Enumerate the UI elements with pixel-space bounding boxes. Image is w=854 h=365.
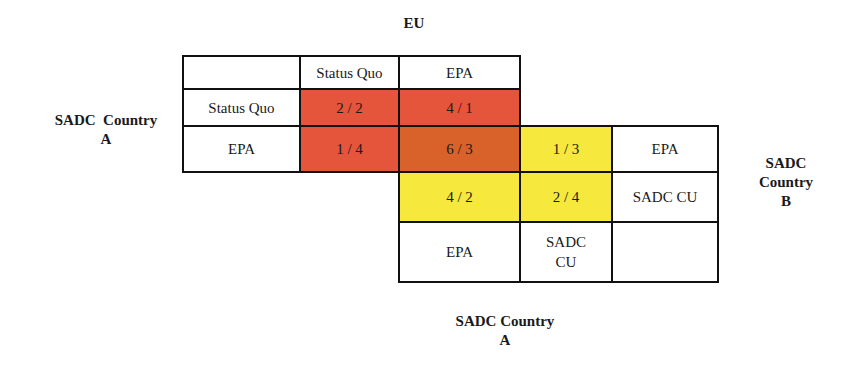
label-line: A	[420, 331, 590, 350]
label-line: Country	[736, 173, 836, 192]
grid-line	[398, 55, 400, 283]
bottom-col-header-sadc-cu: SADC CU	[520, 222, 612, 282]
top-corner-cell	[183, 56, 300, 89]
bottom-col-header-epa: EPA	[399, 222, 520, 282]
payoff-cell-sq-epa: 4 / 1	[399, 89, 520, 126]
grid-line	[398, 281, 719, 283]
grid-line	[299, 55, 301, 173]
top-col-header-status-quo: Status Quo	[300, 56, 399, 89]
grid-line	[519, 55, 521, 283]
bottom-corner-cell	[612, 222, 718, 282]
grid-line	[611, 125, 613, 283]
payoff-cell-sq-sq: 2 / 2	[300, 89, 399, 126]
label-eu: EU	[394, 14, 434, 33]
label-line: SADC Country	[420, 312, 590, 331]
payoff-cell-b-epa-a-cu: 1 / 3	[520, 126, 612, 172]
payoff-cell-epa-sq: 1 / 4	[300, 126, 399, 172]
label-line: SADC	[736, 154, 836, 173]
top-row-header-status-quo: Status Quo	[183, 89, 300, 126]
label-line: B	[736, 192, 836, 211]
grid-line	[183, 88, 521, 90]
label-sadc-country-b: SADC Country B	[736, 154, 836, 211]
label-line: SADC Country	[30, 111, 182, 130]
header-line: SADC	[546, 232, 586, 252]
header-line: CU	[556, 252, 577, 272]
grid-line	[183, 171, 719, 173]
grid-line	[183, 125, 719, 127]
grid-line	[183, 55, 521, 57]
grid-line	[182, 55, 184, 173]
bottom-row-header-sadc-cu: SADC CU	[612, 172, 718, 222]
payoff-cell-b-cu-a-cu: 2 / 4	[520, 172, 612, 222]
payoff-cell-b-cu-a-epa: 4 / 2	[399, 172, 520, 222]
top-col-header-epa: EPA	[399, 56, 520, 89]
payoff-cell-epa-epa-shared: 6 / 3	[399, 126, 520, 172]
top-row-header-epa: EPA	[183, 126, 300, 172]
label-sadc-country-a-bottom: SADC Country A	[420, 312, 590, 350]
grid-line	[717, 125, 719, 283]
bottom-row-header-epa: EPA	[612, 126, 718, 172]
grid-line	[398, 221, 719, 223]
label-sadc-country-a-left: SADC Country A	[30, 111, 182, 149]
label-line: A	[30, 130, 182, 149]
